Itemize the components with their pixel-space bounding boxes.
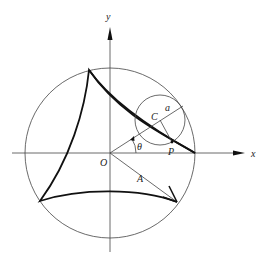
small-radius-label: a xyxy=(165,102,170,113)
point-label: P xyxy=(167,146,174,157)
deltoid-curve xyxy=(40,70,195,202)
theta-arrow-icon xyxy=(130,136,135,141)
line-C-to-P xyxy=(160,120,172,142)
origin-label: O xyxy=(100,157,107,168)
y-axis-arrow-icon xyxy=(108,27,113,40)
x-axis-arrow-icon xyxy=(233,151,245,156)
radius-A-label: A xyxy=(136,173,144,184)
angle-label: θ xyxy=(137,141,142,152)
deltoid-arc-upper-right xyxy=(89,70,195,153)
radius-A-vector xyxy=(110,153,177,202)
point-P xyxy=(171,141,174,144)
theta-angle-arc xyxy=(132,139,136,153)
x-axis-label: x xyxy=(250,148,256,159)
deltoid-diagram: y x O C a θ P A xyxy=(0,0,271,262)
center-label: C xyxy=(151,111,158,122)
y-axis-label: y xyxy=(105,11,111,22)
